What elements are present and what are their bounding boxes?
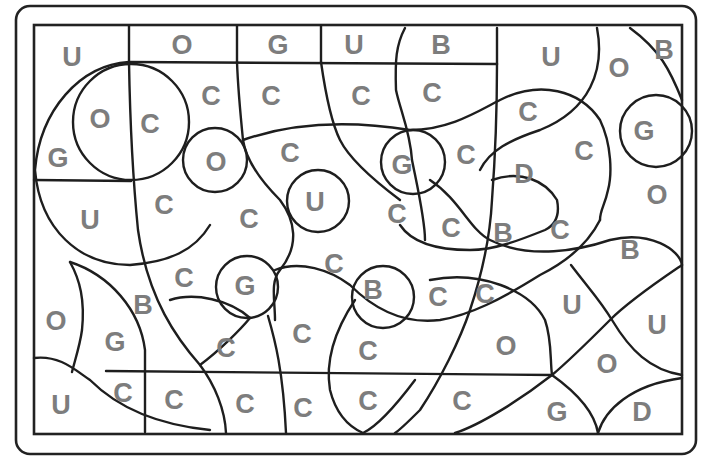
region-letter: G [391, 152, 412, 179]
region-letter: C [235, 391, 255, 418]
region-letter: B [654, 37, 674, 64]
region-letter: B [493, 220, 513, 247]
region-letter: U [305, 189, 325, 216]
region-letter: C [292, 321, 312, 348]
region-letter: O [171, 32, 192, 59]
region-letter: C [358, 338, 378, 365]
region-letter: C [280, 140, 300, 167]
region-letter: C [239, 206, 259, 233]
region-letter: C [422, 80, 442, 107]
region-letter: C [574, 138, 594, 165]
region-letter: C [293, 395, 313, 422]
region-letter: O [205, 149, 226, 176]
region-letter: U [62, 44, 82, 71]
region-letter: B [431, 32, 451, 59]
region-letter: C [261, 83, 281, 110]
region-letter: O [45, 308, 66, 335]
coloring-puzzle: UOGUBUOBCCCCCGOCGOCGCDCOUCCUCCBCBCGCBCCU… [0, 0, 707, 465]
region-letter: C [452, 388, 472, 415]
region-letter: O [596, 351, 617, 378]
region-letter: C [387, 201, 407, 228]
region-letter: U [80, 207, 100, 234]
region-letter: C [358, 388, 378, 415]
region-letter: U [647, 312, 667, 339]
region-letter: B [620, 237, 640, 264]
region-letter: C [164, 387, 184, 414]
region-letter: G [267, 32, 288, 59]
region-letter: B [133, 292, 153, 319]
region-letter: U [562, 292, 582, 319]
region-letter: U [51, 392, 71, 419]
region-letter: O [646, 182, 667, 209]
region-letter: C [113, 380, 133, 407]
region-letter: G [104, 329, 125, 356]
region-letter: G [234, 273, 255, 300]
region-letter: O [495, 333, 516, 360]
region-letter: C [324, 251, 344, 278]
region-letter: C [550, 217, 570, 244]
region-letter: C [518, 99, 538, 126]
region-letter: U [344, 32, 364, 59]
region-letter: D [632, 399, 652, 426]
region-letter: G [633, 118, 654, 145]
region-letter: B [363, 277, 383, 304]
region-letter: U [541, 44, 561, 71]
region-letter: G [47, 145, 68, 172]
region-letter: C [140, 111, 160, 138]
region-letter: C [174, 265, 194, 292]
region-letter: D [514, 161, 534, 188]
region-letter: C [441, 215, 461, 242]
region-letter: C [201, 83, 221, 110]
region-letter: C [456, 142, 476, 169]
region-letter: C [154, 192, 174, 219]
region-letter: O [608, 55, 629, 82]
region-letter: O [89, 106, 110, 133]
region-letter: C [351, 83, 371, 110]
region-letter: C [216, 335, 236, 362]
region-letter: G [546, 399, 567, 426]
letter-layer: UOGUBUOBCCCCCGOCGOCGCDCOUCCUCCBCBCGCBCCU… [0, 0, 707, 465]
region-letter: C [428, 284, 448, 311]
region-letter: C [475, 281, 495, 308]
